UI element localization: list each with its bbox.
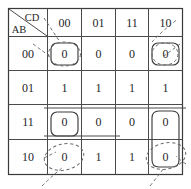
cell-r2-c0: 0 [62,115,68,129]
cell-r1-c3: 1 [163,81,169,95]
cell-r0-c0: 0 [62,47,68,61]
column-header-2: 11 [126,16,138,30]
column-header-3: 10 [160,16,172,30]
cell-r3-c0: 0 [62,150,68,164]
leader-line-bottom-right [150,168,164,186]
cell-r2-c3: 0 [163,115,169,129]
cell-r3-c2: 1 [129,150,135,164]
cell-r0-c3: 0 [163,47,169,61]
cell-r2-c1: 0 [96,115,102,129]
column-header-1: 01 [93,16,105,30]
cell-r1-c1: 1 [96,81,102,95]
column-header-0: 00 [59,16,71,30]
karnaugh-map-canvas: CD AB 00 01 11 10 00 01 11 10 0 0 0 0 1 … [0,0,191,189]
leader-line-bottom-left [42,168,62,186]
row-header-0: 00 [22,47,34,61]
row-header-2: 11 [22,115,34,129]
cell-r0-c1: 0 [96,47,102,61]
karnaugh-map-diagram: CD AB 00 01 11 10 00 01 11 10 0 0 0 0 1 … [0,0,191,189]
column-variable-label: CD [25,12,40,23]
cell-r0-c2: 0 [129,47,135,61]
cell-r3-c3: 0 [163,150,169,164]
row-header-3: 10 [22,150,34,164]
row-header-1: 01 [22,81,34,95]
row-variable-label: AB [12,24,27,35]
cell-r1-c0: 1 [62,81,68,95]
cell-r2-c2: 0 [129,115,135,129]
cell-r3-c1: 1 [96,150,102,164]
cell-r1-c2: 1 [129,81,135,95]
